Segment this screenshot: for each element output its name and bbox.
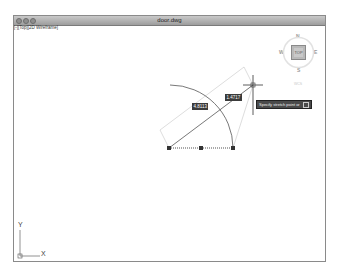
ucs-y-label: Y — [18, 221, 23, 228]
options-down-arrow-icon[interactable] — [303, 102, 309, 108]
extension-line — [244, 67, 253, 85]
extension-line — [160, 130, 169, 148]
dynamic-input-prompt[interactable]: Specify stretch point or — [256, 100, 312, 109]
grip-mid[interactable] — [199, 146, 203, 150]
grip-start[interactable] — [167, 146, 171, 150]
ucs-x-label: X — [41, 250, 46, 257]
dimension-input-length[interactable]: 4.8113 — [192, 103, 208, 110]
viewcube-compass-ring — [284, 38, 314, 68]
drawing-canvas[interactable] — [0, 0, 339, 273]
dimension-input-delta[interactable]: 1.4717 — [225, 94, 242, 101]
grip-end[interactable] — [231, 146, 235, 150]
door-swing-arc[interactable] — [170, 85, 233, 148]
prompt-text: Specify stretch point or — [259, 102, 300, 107]
